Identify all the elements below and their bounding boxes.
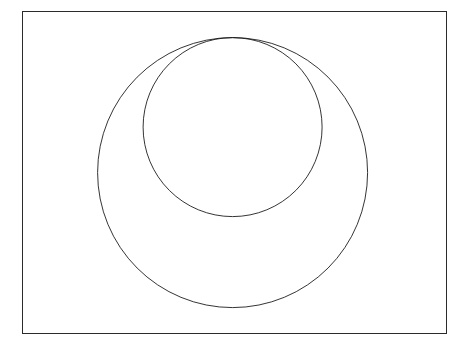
outer-boundary-circle [98,38,368,308]
figure-page [0,0,473,350]
apollonian-gasket-svg [23,12,448,335]
inner-boundary-circle [143,38,322,217]
figure-border-frame [22,11,447,334]
gasket-circle-group [98,38,368,308]
